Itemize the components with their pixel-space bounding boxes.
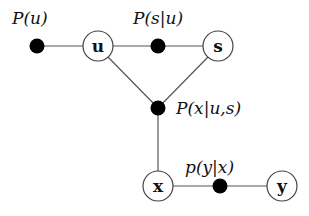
edge-u-fxus <box>108 57 158 108</box>
factor-label-p-s-given-u: P(s|u) <box>132 8 183 28</box>
variable-label-x: x <box>153 176 164 196</box>
variable-label-y: y <box>276 176 288 196</box>
factor-node-p-x-given-us <box>151 101 166 116</box>
factor-node-p-y-given-x <box>213 179 228 194</box>
factor-node-p-u <box>30 39 45 54</box>
variable-label-u: u <box>92 36 104 56</box>
variable-label-s: s <box>213 36 223 56</box>
factor-label-p-x-given-us: P(x|u,s) <box>175 98 241 118</box>
factor-graph: u s x y P(u) P(s|u) P(x|u,s) p(y|x) <box>0 0 309 216</box>
factor-label-p-u: P(u) <box>11 8 48 28</box>
factor-label-p-y-given-x: p(y|x) <box>185 157 234 177</box>
factor-node-p-s-given-u <box>151 39 166 54</box>
